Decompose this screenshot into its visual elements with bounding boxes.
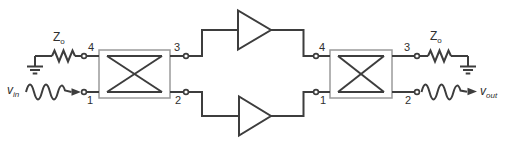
vout-sub: out: [486, 91, 497, 100]
sine-source-icon-left: [26, 85, 81, 100]
balanced-amplifier-schematic: vin Zo Zo vout 4 3 1 2 4 3 1 2: [0, 0, 508, 147]
wire-amp-top-to-port4: [271, 30, 314, 56]
z0-right-sub: o: [437, 36, 441, 45]
right-arrowhead-icon: [72, 88, 82, 95]
sine-wave-icon-right: [422, 85, 478, 100]
ground-icon: [460, 56, 476, 74]
port-label-2-coupler1: 2: [174, 95, 182, 106]
z0-left-sub: o: [60, 37, 64, 46]
wire-port2-to-amp-bottom: [189, 92, 240, 116]
port-label-3-coupler2: 3: [403, 42, 411, 53]
z0-label-right: Zo: [430, 30, 442, 45]
vin-sub: in: [13, 90, 19, 99]
port-label-3-coupler1: 3: [173, 42, 181, 53]
terminal-port4-coupler1: [82, 54, 87, 59]
resistor-icon-right: [428, 51, 451, 62]
hybrid-coupler-output: [330, 50, 392, 98]
terminal-port3-coupler2: [415, 54, 420, 59]
amplifier-icon-top: [238, 11, 271, 50]
terminal-port3-coupler1: [184, 54, 189, 59]
terminal-port4-coupler2: [314, 54, 319, 59]
vout-label: vout: [480, 85, 497, 100]
vin-label: vin: [7, 84, 19, 99]
terminal-port1-coupler1: [82, 90, 87, 95]
wire-port3-to-amp-top: [189, 30, 239, 56]
port-label-2-coupler2: 2: [404, 95, 412, 106]
ground-icon: [27, 56, 43, 74]
terminal-port2-coupler2: [415, 90, 420, 95]
port-label-4-coupler1: 4: [87, 42, 95, 53]
port-label-1-coupler2: 1: [319, 95, 327, 106]
schematic-canvas: [0, 0, 508, 147]
port-label-1-coupler1: 1: [86, 95, 94, 106]
resistor-icon-left: [52, 51, 75, 62]
terminal-port2-coupler1: [184, 90, 189, 95]
hybrid-coupler-input: [99, 50, 170, 98]
terminal-port1-coupler2: [314, 90, 319, 95]
wire-amp-bottom-to-port1: [271, 92, 314, 116]
amplifier-icon-bottom: [239, 97, 271, 136]
right-arrowhead-icon: [468, 88, 478, 95]
port-label-4-coupler2: 4: [318, 42, 326, 53]
z0-label-left: Zo: [53, 31, 65, 46]
